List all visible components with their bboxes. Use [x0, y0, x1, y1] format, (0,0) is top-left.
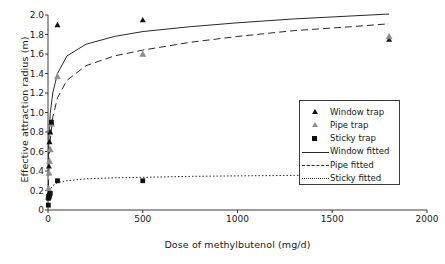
- y-axis-tick-labels: 00.20.40.60.81.01.21.41.61.82.0: [18, 0, 44, 264]
- y-axis-tick-label: 0.6: [20, 147, 44, 157]
- legend-item-label: Sticky fitted: [330, 174, 381, 183]
- legend-item[interactable]: Sticky trap: [300, 131, 401, 145]
- triangle-open-marker-icon: [312, 122, 318, 127]
- data-point-window-trap: [47, 139, 53, 144]
- y-axis-tick-label: 1.8: [20, 30, 44, 40]
- x-axis-label: Dose of methylbutenol (mg/d): [48, 239, 427, 250]
- legend-item[interactable]: Pipe trap: [300, 118, 401, 132]
- y-axis-tick-label: 1.4: [20, 69, 44, 79]
- legend-item-label: Window fitted: [330, 147, 390, 156]
- data-point-window-trap: [54, 22, 60, 27]
- solid-line-icon: [302, 152, 329, 153]
- data-point-sticky-trap: [46, 203, 51, 208]
- legend-key: [300, 158, 330, 172]
- y-axis-tick-label: 1.6: [20, 49, 44, 59]
- x-axis-tick-label: 2000: [402, 214, 445, 224]
- data-point-pipe-trap: [46, 186, 52, 191]
- x-axis-tick-label: 1500: [307, 214, 357, 224]
- legend-item-label: Window trap: [330, 108, 384, 117]
- legend: Window trapPipe trapSticky trapWindow fi…: [299, 100, 400, 185]
- y-axis-tick-label: 0.2: [20, 186, 44, 196]
- y-axis-tick-label: 0.8: [20, 127, 44, 137]
- square-marker-icon: [312, 136, 317, 141]
- data-point-sticky-trap: [55, 178, 60, 183]
- dashed-line-icon: [302, 165, 329, 166]
- data-point-sticky-trap: [140, 178, 145, 183]
- data-point-sticky-trap: [48, 191, 53, 196]
- x-axis-tick-label: 500: [118, 214, 168, 224]
- chart-figure: Effective attraction radius (m) 00.20.40…: [0, 0, 445, 264]
- x-axis-tick-label: 0: [23, 214, 73, 224]
- y-axis-tick-label: 1.2: [20, 88, 44, 98]
- legend-item-label: Pipe trap: [330, 121, 368, 130]
- x-axis-tick-label: 1000: [213, 214, 263, 224]
- dotted-line-icon: [302, 178, 329, 179]
- data-point-pipe-trap: [140, 51, 146, 56]
- triangle-marker-icon: [312, 109, 318, 114]
- legend-item-label: Sticky trap: [330, 134, 376, 143]
- legend-item[interactable]: Pipe fitted: [300, 158, 401, 172]
- legend-key: [300, 131, 330, 145]
- y-axis-tick-label: 2.0: [20, 10, 44, 20]
- data-point-sticky-trap: [49, 120, 54, 125]
- legend-key: [300, 105, 330, 119]
- legend-item-label: Pipe fitted: [330, 161, 374, 170]
- legend-item[interactable]: Window fitted: [300, 145, 401, 159]
- legend-key: [300, 118, 330, 132]
- data-point-pipe-trap: [54, 73, 60, 78]
- data-point-pipe-trap: [47, 158, 53, 163]
- legend-item[interactable]: Sticky fitted: [300, 171, 401, 185]
- y-axis-tick-label: 1.0: [20, 108, 44, 118]
- legend-key: [300, 145, 330, 159]
- y-axis-tick-label: 0.4: [20, 166, 44, 176]
- data-point-window-trap: [140, 17, 146, 22]
- data-point-pipe-trap: [386, 33, 392, 38]
- legend-item[interactable]: Window trap: [300, 105, 401, 119]
- legend-key: [300, 171, 330, 185]
